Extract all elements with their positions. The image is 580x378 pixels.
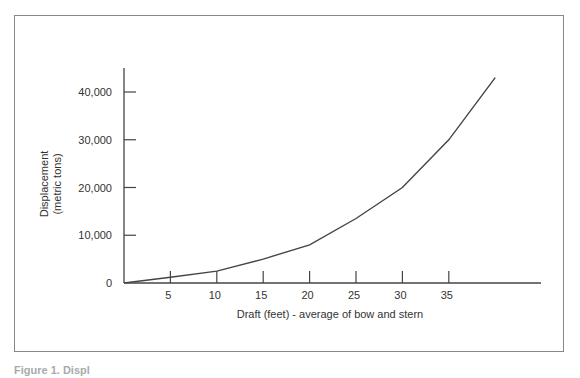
figure-caption: Figure 1. Displ <box>14 364 90 376</box>
y-axis-title-line2: (metric tons) <box>51 153 63 214</box>
y-tick-label: 0 <box>106 277 112 289</box>
y-axis-title-line1: Displacement <box>38 151 50 218</box>
y-ticks: 010,00020,00030,00040,000 <box>78 86 136 289</box>
y-tick-label: 40,000 <box>78 86 112 98</box>
x-tick-label: 25 <box>348 289 360 301</box>
y-axis-title: Displacement (metric tons) <box>38 151 63 218</box>
x-tick-label: 10 <box>209 289 221 301</box>
displacement-curve <box>124 78 495 283</box>
x-tick-label: 20 <box>301 289 313 301</box>
x-axis-title: Draft (feet) - average of bow and stern <box>237 308 423 320</box>
y-tick-label: 20,000 <box>78 182 112 194</box>
y-tick-label: 30,000 <box>78 134 112 146</box>
x-tick-label: 5 <box>165 289 171 301</box>
y-tick-label: 10,000 <box>78 229 112 241</box>
x-tick-label: 35 <box>441 289 453 301</box>
line-chart: 010,00020,00030,00040,000 5101520253035 … <box>0 0 580 378</box>
x-tick-label: 30 <box>394 289 406 301</box>
x-tick-label: 15 <box>255 289 267 301</box>
x-ticks: 5101520253035 <box>165 271 453 301</box>
